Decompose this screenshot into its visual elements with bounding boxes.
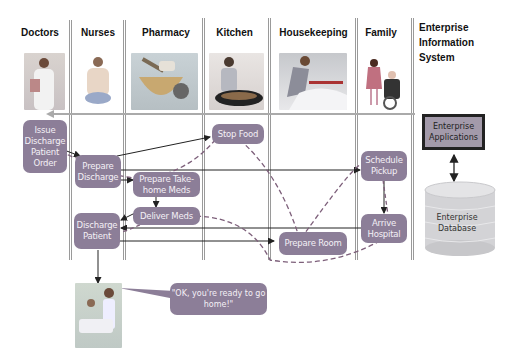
task-prepare-takehome-meds[interactable]: Prepare Take-home Meds [133,172,200,197]
enterprise-applications-box[interactable]: Enterprise Applications [422,114,485,150]
task-issue-discharge-order[interactable]: Issue Discharge Patient Order [23,120,67,173]
task-prepare-discharge[interactable]: Prepare Discharge [75,155,121,188]
discharge-workflow-diagram: Doctors Nurses Pharmacy Kitchen Housekee… [0,0,510,355]
discharge-scene-image [75,283,122,348]
task-arrive-hospital[interactable]: Arrive Hospital [361,214,407,243]
task-discharge-patient[interactable]: Discharge Patient [74,213,120,249]
task-prepare-room[interactable]: Prepare Room [279,232,347,255]
task-schedule-pickup[interactable]: Schedule Pickup [361,151,407,181]
task-stop-food[interactable]: Stop Food [212,124,264,144]
doctor-patient-figure-icon [75,283,122,348]
speech-bubble: "OK, you're ready to go home!" [170,283,267,315]
enterprise-database-label: Enterprise Database [422,212,492,234]
task-deliver-meds[interactable]: Deliver Meds [133,207,200,225]
